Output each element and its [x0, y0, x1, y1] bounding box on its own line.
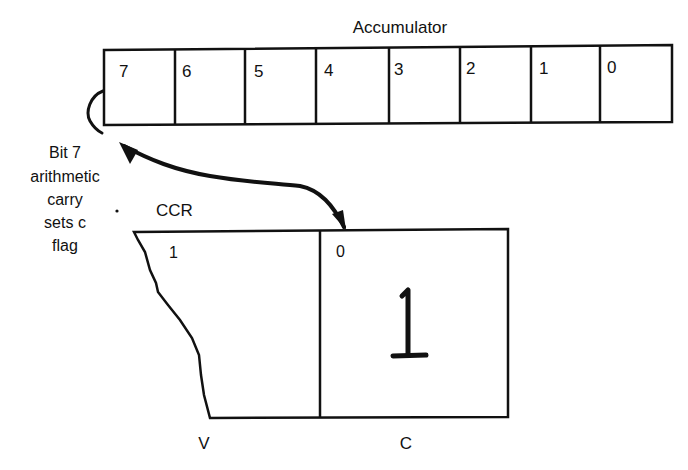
flag-label-c: C — [400, 434, 412, 453]
annotation-line: carry — [47, 191, 83, 208]
arrow-head-left-icon — [119, 142, 138, 164]
bit-label-5: 5 — [254, 62, 263, 81]
accumulator-title: Accumulator — [353, 18, 448, 37]
bit-label-4: 4 — [324, 61, 333, 80]
carry-flag-diagram: Accumulator 7 6 5 4 3 2 1 0 Bit 7 arithm… — [0, 0, 688, 470]
flag-label-v: V — [198, 434, 210, 453]
bit-label-2: 2 — [466, 59, 475, 78]
annotation-line: Bit 7 — [49, 144, 81, 161]
handwritten-one-base — [393, 355, 426, 356]
accumulator-bit-labels: 7 6 5 4 3 2 1 0 — [119, 58, 616, 81]
carry-annotation: Bit 7 arithmetic carry sets c flag — [30, 144, 99, 254]
ccr-register — [134, 229, 508, 418]
bit-label-6: 6 — [182, 62, 191, 81]
bit-label-7: 7 — [119, 62, 128, 81]
annotation-line: flag — [52, 237, 78, 254]
ccr-bit-label-0: 0 — [336, 243, 345, 260]
bit-label-3: 3 — [394, 60, 403, 79]
handwritten-one-glyph — [402, 290, 408, 355]
annotation-line: sets c — [44, 214, 86, 231]
ccr-bit-label-1: 1 — [169, 244, 178, 261]
accumulator-register — [104, 45, 672, 125]
carry-out-bracket-icon — [88, 91, 103, 133]
bit-label-1: 1 — [539, 59, 548, 78]
ccr-title: CCR — [156, 201, 193, 220]
stray-dot — [115, 209, 118, 212]
bit-label-0: 0 — [607, 58, 616, 77]
annotation-line: arithmetic — [30, 168, 99, 185]
carry-arrow — [119, 142, 346, 230]
